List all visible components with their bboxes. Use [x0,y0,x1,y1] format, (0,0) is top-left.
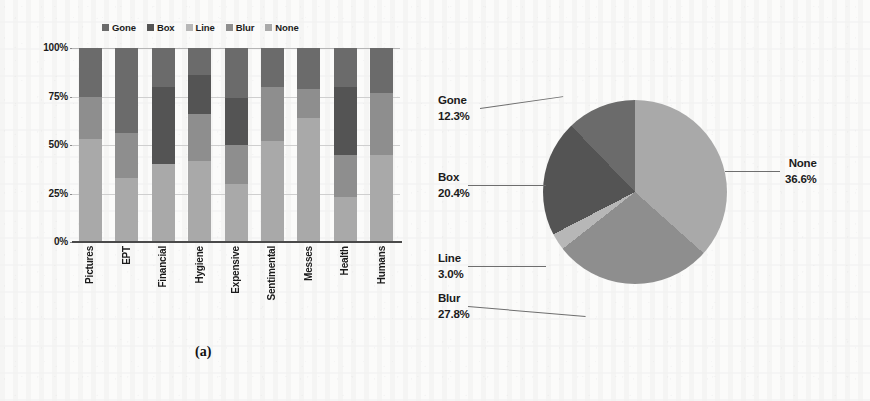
pie-callout-label: Blur [438,290,470,306]
bar-segment-hygiene-gone[interactable] [188,48,211,75]
bar-segment-financial-none[interactable] [152,164,175,242]
bar-column-ept[interactable] [115,48,138,242]
bar-chart-x-axis-line [72,241,402,243]
legend-swatch-icon-none [265,24,272,31]
bar-segment-pictures-gone[interactable] [79,48,102,97]
bar-chart-y-axis: 0%25%50%75%100% [28,40,68,250]
bar-segment-pictures-none[interactable] [79,139,102,242]
pie-callout-label: None [785,155,817,171]
bar-segment-financial-box[interactable] [152,87,175,165]
x-tick-label-pictures: Pictures [84,246,95,284]
bar-segment-financial-gone[interactable] [152,48,175,87]
pie-callout-box: Box20.4% [438,169,470,202]
bar-segment-messes-gone[interactable] [297,48,320,89]
pie-callout-none: None36.6% [785,155,817,188]
bar-column-messes[interactable] [297,48,320,242]
bar-segment-health-none[interactable] [334,197,357,242]
bar-segment-expensive-box[interactable] [225,98,248,145]
bar-segment-ept-gone[interactable] [115,48,138,133]
bar-segment-hygiene-none[interactable] [188,161,211,242]
x-tick-label-expensive: Expensive [230,246,241,294]
y-tick-label-75: 75% [49,91,68,102]
pie-callout-percent: 12.3% [438,108,470,124]
x-tick-label-hygiene: Hygiene [194,246,205,284]
bar-segment-sentimental-blur[interactable] [261,87,284,141]
bar-segment-sentimental-gone[interactable] [261,48,284,87]
pie-leader-line-line [468,266,546,267]
bar-segment-ept-none[interactable] [115,178,138,242]
bar-chart-legend: GoneBoxLineBlurNone [102,22,299,33]
bar-chart-plot-area [72,48,400,242]
subfigure-b-pie-chart: None36.6%Blur27.8%Line3.0%Box20.4%Gone12… [418,0,870,401]
y-tick-label-50: 50% [49,139,68,150]
bar-column-financial[interactable] [152,48,175,242]
pie-callout-line: Line3.0% [438,250,463,283]
x-tick-label-financial: Financial [157,246,168,288]
bar-column-pictures[interactable] [79,48,102,242]
bar-column-health[interactable] [334,48,357,242]
x-tick-label-humans: Humans [376,246,387,284]
bar-segment-health-gone[interactable] [334,48,357,87]
x-tick-label-sentimental: Sentimental [266,246,277,300]
legend-swatch-icon-blur [226,24,233,31]
x-tick-label-messes: Messes [303,246,314,281]
y-tick-label-100: 100% [43,42,68,53]
legend-entry-box: Box [147,22,175,33]
pie-callout-percent: 3.0% [438,266,463,282]
legend-swatch-icon-line [186,24,193,31]
bar-segment-humans-gone[interactable] [370,48,393,93]
bar-segment-pictures-blur[interactable] [79,97,102,140]
legend-label: None [275,22,298,33]
pie-leader-line-blur [468,306,586,317]
bar-segment-expensive-gone[interactable] [225,48,248,98]
subfigure-a-stacked-bar-chart: GoneBoxLineBlurNone 0%25%50%75%100% Pict… [0,0,418,401]
legend-entry-none: None [265,22,298,33]
bar-segment-ept-blur[interactable] [115,133,138,178]
pie-callout-label: Line [438,250,463,266]
bar-segment-messes-none[interactable] [297,118,320,242]
bar-column-expensive[interactable] [225,48,248,242]
pie-leader-line-none [725,171,780,172]
pie-callout-percent: 36.6% [785,171,817,187]
bar-segment-health-box[interactable] [334,87,357,155]
bar-segment-expensive-blur[interactable] [225,145,248,184]
bar-column-hygiene[interactable] [188,48,211,242]
bar-segment-hygiene-blur[interactable] [188,114,211,161]
pie-leader-line-box [468,185,546,186]
pie-callout-percent: 27.8% [438,306,470,322]
pie-callout-blur: Blur27.8% [438,290,470,323]
pie-chart-disc [543,100,727,284]
bar-column-humans[interactable] [370,48,393,242]
pie-chart-wrap: None36.6%Blur27.8%Line3.0%Box20.4%Gone12… [418,0,870,330]
bar-segment-humans-blur[interactable] [370,93,393,155]
y-tick-label-25: 25% [49,188,68,199]
legend-label: Gone [112,22,136,33]
legend-label: Line [196,22,215,33]
pie-callout-percent: 20.4% [438,185,470,201]
x-tick-label-health: Health [339,246,350,275]
subfigure-a-caption: (a) [195,344,211,360]
bar-column-sentimental[interactable] [261,48,284,242]
legend-entry-blur: Blur [226,22,255,33]
bar-segment-hygiene-box[interactable] [188,75,211,114]
legend-entry-gone: Gone [102,22,136,33]
x-tick-label-ept: EPT [121,246,132,265]
pie-leader-line-gone [480,96,563,109]
legend-label: Blur [236,22,255,33]
y-tick-label-0: 0% [54,236,68,247]
figure-root: GoneBoxLineBlurNone 0%25%50%75%100% Pict… [0,0,870,401]
legend-label: Box [157,22,175,33]
bar-segment-messes-blur[interactable] [297,89,320,118]
bar-segment-sentimental-none[interactable] [261,141,284,242]
legend-entry-line: Line [186,22,215,33]
bar-chart-x-axis-labels: PicturesEPTFinancialHygieneExpensiveSent… [72,246,402,316]
pie-callout-label: Box [438,169,470,185]
legend-swatch-icon-box [147,24,154,31]
pie-callout-gone: Gone12.3% [438,92,470,125]
legend-swatch-icon-gone [102,24,109,31]
pie-callout-label: Gone [438,92,470,108]
bar-segment-health-blur[interactable] [334,155,357,198]
bar-segment-expensive-none[interactable] [225,184,248,242]
bar-segment-humans-none[interactable] [370,155,393,242]
